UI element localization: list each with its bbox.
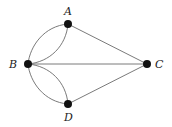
label-a: A — [63, 5, 72, 18]
edge-a-c — [68, 24, 147, 64]
node-d — [64, 100, 72, 108]
label-d: D — [63, 111, 73, 124]
graph-diagram: A B C D — [0, 0, 172, 127]
label-c: C — [155, 58, 164, 71]
node-a — [64, 20, 72, 28]
edge-a-b-inner — [28, 24, 68, 64]
edge-b-d-inner — [28, 64, 68, 104]
label-b: B — [8, 58, 17, 71]
edge-d-c — [68, 64, 147, 104]
node-b — [24, 60, 32, 68]
node-c — [143, 60, 151, 68]
